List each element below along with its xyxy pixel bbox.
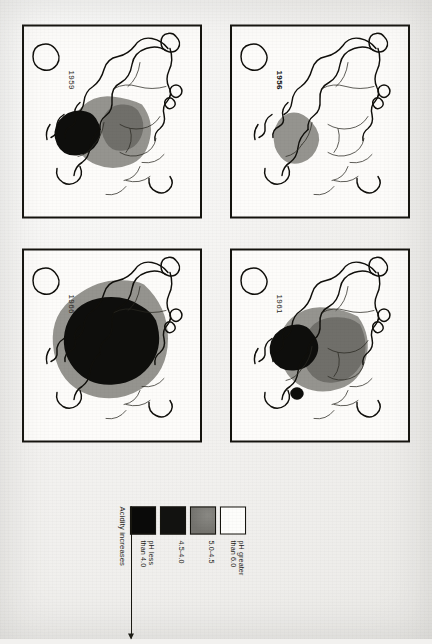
legend-label-ph-5-45: 5.0-4.5: [207, 540, 216, 563]
legend-label-ph-45-40: 4.5-4.0: [177, 540, 186, 563]
legend-label-ph-below-4: pH less than 4.0: [138, 540, 156, 567]
legend-entry-ph-45-40: 4.5-4.0: [161, 506, 186, 638]
map-panel-1956[interactable]: 1956: [230, 24, 410, 218]
map-panel-1966[interactable]: 1966: [22, 248, 202, 442]
legend-swatch-ph-above-6: [220, 506, 246, 534]
year-label-1956: 1956: [275, 70, 284, 89]
legend-label-ph-above-6: pH greater than 6.0: [228, 540, 246, 575]
year-label-1961: 1961: [275, 294, 284, 313]
map-svg-1961: [232, 250, 408, 440]
coastline-1956: [241, 33, 390, 193]
acidity-arrow-label: Acidity increases: [118, 506, 127, 644]
map-svg-1959: [24, 26, 200, 216]
map-panel-1959[interactable]: 1959: [22, 24, 202, 218]
legend-entry-ph-below-4: pH less than 4.0: [131, 506, 156, 638]
legend-swatch-ph-below-4: [130, 506, 156, 534]
year-label-1959: 1959: [67, 70, 76, 89]
ph-zones-1961: [270, 307, 368, 400]
map-svg-1966: [24, 250, 200, 440]
legend-entry-ph-5-45: 5.0-4.5: [191, 506, 216, 638]
map-svg-1956: [232, 26, 408, 216]
legend-swatch-ph-5-45: [190, 506, 216, 534]
legend-swatch-ph-45-40: [160, 506, 186, 534]
map-panel-1961[interactable]: 1961: [230, 248, 410, 442]
legend-entry-ph-above-6: pH greater than 6.0: [221, 506, 246, 638]
year-label-1966: 1966: [67, 294, 76, 313]
ph-zones-1959: [54, 96, 151, 168]
arrow-right-icon: [131, 506, 132, 638]
legend: pH greater than 6.0 5.0-4.5 4.5-4.0 pH l…: [126, 506, 246, 638]
acidity-arrow: Acidity increases: [118, 506, 132, 644]
